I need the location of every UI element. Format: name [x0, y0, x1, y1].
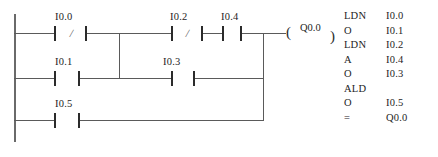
contact-i01-label: I0.1	[55, 56, 72, 67]
rung1-wire-i04-to-coil	[242, 33, 286, 34]
instruction-arg: I0.5	[386, 97, 403, 108]
instruction-arg: I0.4	[386, 54, 403, 65]
coil-q00-label: Q0.0	[300, 22, 321, 33]
instruction-op: LDN	[344, 10, 386, 21]
rung1-wire-i02-to-i04	[203, 33, 222, 34]
contact-i02-label: I0.2	[170, 11, 187, 22]
instruction-arg: I0.3	[386, 68, 403, 79]
instruction-op: O	[344, 97, 386, 108]
rung1-wire-i00-to-i02	[87, 33, 171, 34]
rung2-wire-rail-to-i01	[14, 78, 54, 79]
rung2-wire-i01-to-i03	[80, 78, 171, 79]
branch-connector-right	[263, 33, 264, 121]
instruction-arg: I0.1	[386, 25, 403, 36]
instruction-arg: I0.2	[386, 39, 403, 50]
ladder-diagram-canvas: / I0.0 / I0.2 I0.4 ( Q0.0 ) I0.1 I0.3 I0…	[0, 0, 438, 157]
contact-i05-left-bar[interactable]	[54, 113, 56, 128]
contact-i04-label: I0.4	[221, 11, 238, 22]
instruction-row: O I0.3	[344, 68, 438, 83]
instruction-row: O I0.5	[344, 97, 438, 112]
instruction-row: = Q0.0	[344, 112, 438, 127]
contact-i04-left-bar[interactable]	[222, 26, 224, 41]
instruction-op: A	[344, 54, 386, 65]
instruction-row: ALD	[344, 83, 438, 98]
contact-i00-label: I0.0	[55, 11, 72, 22]
contact-i05-label: I0.5	[55, 98, 72, 109]
instruction-op: O	[344, 25, 386, 36]
contact-i03-label: I0.3	[163, 56, 180, 67]
instruction-row: O I0.1	[344, 25, 438, 40]
instruction-arg: Q0.0	[386, 112, 408, 123]
instruction-row: LDN I0.2	[344, 39, 438, 54]
coil-open-paren: (	[286, 25, 291, 40]
instruction-op: ALD	[344, 83, 386, 94]
rung2-wire-i03-to-join	[195, 78, 264, 79]
contact-i03-left-bar[interactable]	[171, 71, 173, 86]
contact-i02-left-bar[interactable]	[171, 26, 173, 41]
instruction-row: A I0.4	[344, 54, 438, 69]
contact-i01-left-bar[interactable]	[54, 71, 56, 86]
instruction-row: LDN I0.0	[344, 10, 438, 25]
rung3-wire-i05-to-join	[80, 120, 264, 121]
branch-connector-middle	[119, 33, 120, 79]
instruction-list: LDN I0.0 O I0.1 LDN I0.2 A I0.4 O I0.3 A…	[344, 10, 438, 126]
instruction-op: =	[344, 112, 386, 123]
contact-i00-left-bar[interactable]	[54, 26, 56, 41]
contact-i00-negation-mark: /	[69, 28, 74, 39]
instruction-op: O	[344, 68, 386, 79]
rung1-wire-rail-to-i00	[14, 33, 54, 34]
instruction-op: LDN	[344, 39, 386, 50]
coil-close-paren: )	[330, 29, 335, 44]
rung3-wire-rail-to-i05	[14, 120, 54, 121]
contact-i02-negation-mark: /	[185, 28, 190, 39]
instruction-arg: I0.0	[386, 10, 403, 21]
